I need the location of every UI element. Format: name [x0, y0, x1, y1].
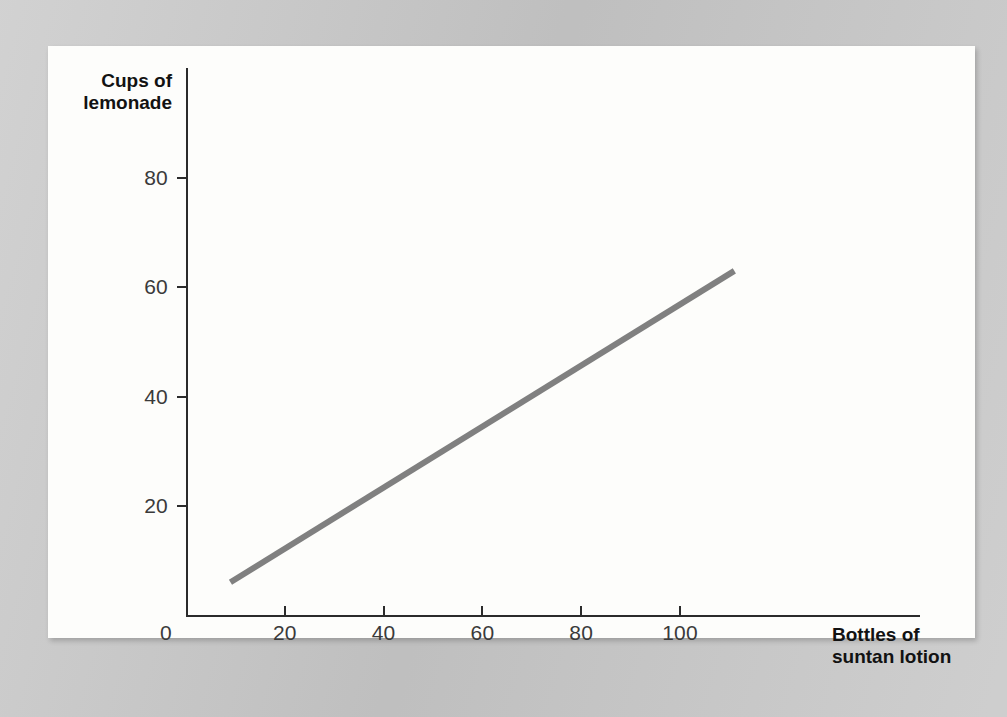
- x-axis-title-line-2: suntan lotion: [832, 646, 951, 668]
- chart-plot-area: Cups of lemonade Bottles of suntan lotio…: [48, 46, 975, 638]
- figure-paper: Cups of lemonade Bottles of suntan lotio…: [48, 46, 975, 638]
- series-layer: [48, 46, 975, 638]
- series-line-0: [230, 271, 734, 582]
